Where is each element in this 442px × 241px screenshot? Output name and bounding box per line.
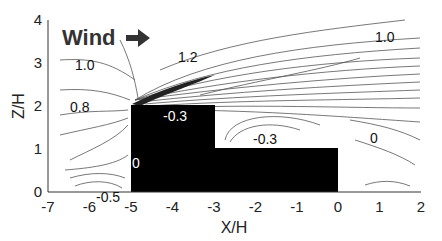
svg-text:-1: -1 xyxy=(290,198,303,215)
svg-text:-6: -6 xyxy=(83,198,96,215)
svg-text:-0.3: -0.3 xyxy=(163,108,187,124)
svg-text:-0.3: -0.3 xyxy=(253,131,277,147)
svg-text:1.0: 1.0 xyxy=(375,29,395,45)
svg-text:0.8: 0.8 xyxy=(70,99,90,115)
y-tick-labels: 0 1 2 3 4 xyxy=(34,11,42,200)
svg-text:-7: -7 xyxy=(41,198,54,215)
svg-text:-2: -2 xyxy=(249,198,262,215)
svg-text:-4: -4 xyxy=(166,198,179,215)
svg-text:2: 2 xyxy=(417,198,425,215)
svg-text:0: 0 xyxy=(34,183,42,200)
wind-arrow-icon xyxy=(126,29,150,47)
svg-text:0: 0 xyxy=(370,130,378,146)
x-axis-label: X/H xyxy=(221,219,248,236)
svg-text:1.0: 1.0 xyxy=(75,57,95,73)
svg-text:-5: -5 xyxy=(124,198,137,215)
y-axis-label: Z/H xyxy=(10,93,27,119)
svg-text:1.2: 1.2 xyxy=(178,49,198,65)
svg-text:4: 4 xyxy=(34,11,42,28)
svg-text:2: 2 xyxy=(34,97,42,114)
svg-text:-0.5: -0.5 xyxy=(96,189,120,205)
low-block xyxy=(214,148,338,192)
svg-text:1: 1 xyxy=(34,140,42,157)
contour-chart: -7 -6 -5 -4 -3 -2 -1 0 1 2 0 1 2 3 4 X/H… xyxy=(0,0,442,241)
svg-text:0: 0 xyxy=(334,198,342,215)
svg-text:0: 0 xyxy=(132,155,140,171)
svg-text:-3: -3 xyxy=(207,198,220,215)
svg-text:1: 1 xyxy=(375,198,383,215)
svg-text:3: 3 xyxy=(34,54,42,71)
wind-label: Wind xyxy=(62,25,116,50)
